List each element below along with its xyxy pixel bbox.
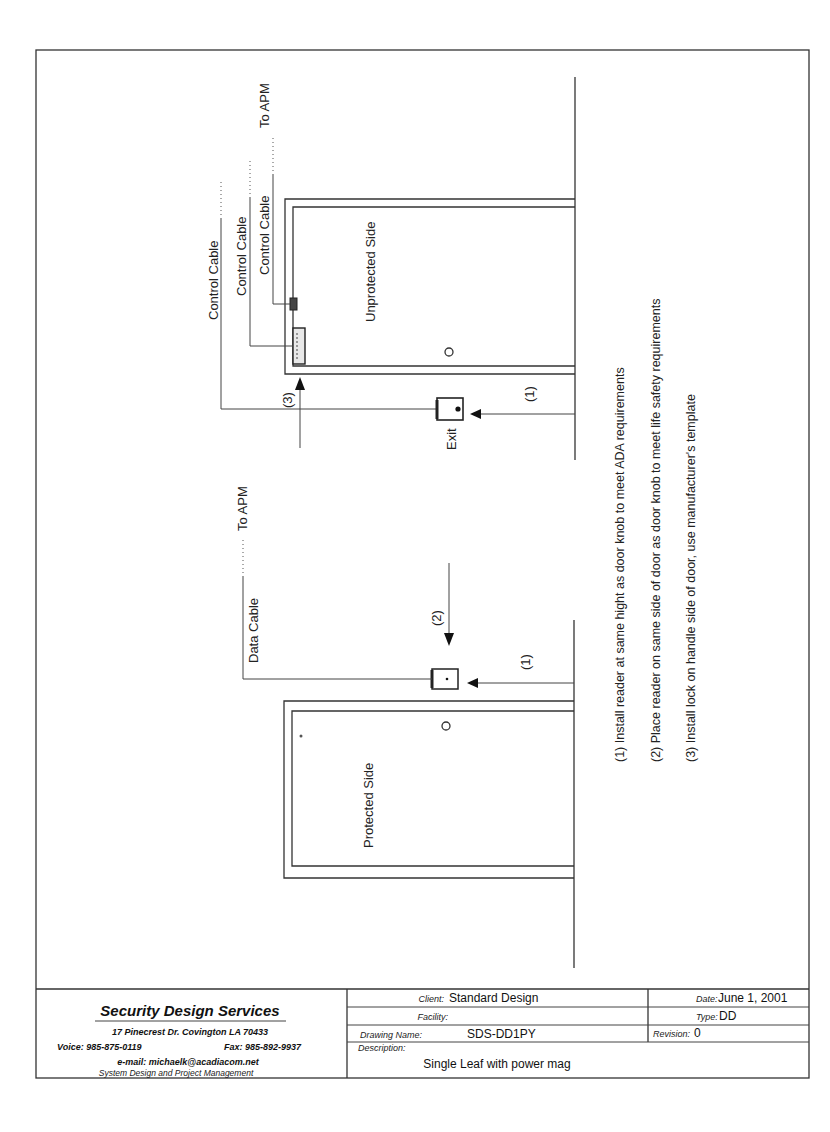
card-reader [432,669,458,689]
arrow-icon [467,678,478,688]
control-cable-label-3: Control Cable [257,196,272,276]
hinge-dot [300,735,303,738]
drawing-name-value: SDS-DD1PY [467,1027,536,1041]
client-label: Client: [418,994,444,1004]
data-cable [243,576,432,679]
notes: (1) Install reader at same hight as door… [613,299,698,762]
description-value: Single Leaf with power mag [423,1057,570,1071]
date-value: June 1, 2001 [718,991,788,1005]
note-1: (1) Install reader at same hight as door… [613,367,627,762]
exit-label: Exit [444,428,459,450]
callout-2: (2) [429,610,444,626]
mag-lock [293,328,305,364]
drawing-name-label: Drawing Name: [360,1030,423,1040]
note-3: (3) Install lock on handle side of door,… [684,394,698,762]
unprotected-door-frame [285,199,575,374]
control-cable-label-1: Control Cable [206,241,221,321]
company-email: e-mail: michaelk@acadiacom.net [117,1057,259,1067]
company-address: 17 Pinecrest Dr. Covington LA 70433 [112,1027,268,1037]
company-voice: Voice: 985-875-0119 [57,1042,142,1052]
arrow-down-icon [444,633,454,646]
control-cable-labels: Control Cable Control Cable Control Cabl… [206,83,272,320]
type-label: Type: [696,1012,718,1022]
unprotected-side-label: Unprotected Side [363,222,378,322]
title-block: Security Design Services 17 Pinecrest Dr… [57,989,809,1078]
revision-label: Revision: [653,1029,691,1039]
date-label: Date: [696,994,718,1004]
note-2: (2) Place reader on same side of door as… [649,299,663,762]
company-name: Security Design Services [100,1002,279,1019]
to-apm-label-protected: To APM [235,486,250,531]
door-knob-protected [442,722,450,730]
callout-1-protected: (1) [518,654,533,670]
arrow-icon [470,409,481,419]
description-label: Description: [358,1043,406,1053]
control-cable-label-2: Control Cable [234,217,249,297]
card-reader-led [446,678,449,681]
callout-3: (3) [280,392,295,408]
facility-label: Facility: [417,1012,448,1022]
to-apm-label-unprotected: To APM [257,83,272,128]
type-value: DD [719,1009,737,1023]
company-fax: Fax: 985-892-9937 [224,1042,302,1052]
protected-side-label: Protected Side [361,763,376,848]
callout-1-unprotected: (1) [522,386,537,402]
protected-door-frame [284,701,574,878]
door-knob-unprotected [445,348,453,356]
control-cable-3 [273,174,290,304]
exit-reader-led [455,406,460,411]
revision-value: 0 [694,1026,701,1040]
data-cable-label: Data Cable [246,598,261,663]
door-hardware-drawing: Control Cable Control Cable Control Cabl… [0,0,830,1132]
company-tagline: System Design and Project Management [99,1068,254,1078]
door-position-switch [290,298,297,310]
client-value: Standard Design [449,991,538,1005]
arrow-up-icon [295,377,305,390]
